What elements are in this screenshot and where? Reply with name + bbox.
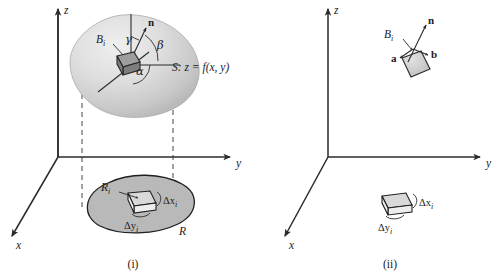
- x-axis-label-ii: x: [288, 239, 295, 251]
- delta-x-label-ii: Δxi: [419, 197, 433, 211]
- panel-ii: z y x n Bi a b: [285, 4, 492, 271]
- bi-leader-line-ii: [403, 39, 412, 50]
- bi-label-ii: Bi: [384, 28, 393, 43]
- z-axis-label-ii: z: [333, 4, 339, 16]
- surface-equation-label: S: z = f(x, y): [172, 61, 229, 74]
- delta-x-brace-ii: [413, 194, 417, 208]
- figure-canvas: z y x n Bi: [0, 0, 497, 274]
- alpha-label: α: [136, 64, 144, 78]
- normal-label-i: n: [148, 16, 154, 28]
- y-axis-label-ii: y: [485, 157, 492, 170]
- tangent-patch-bi: [402, 51, 430, 77]
- x-axis-ii: [285, 157, 328, 236]
- y-axis-label-i: y: [235, 157, 242, 170]
- vector-b-label: b: [431, 48, 437, 60]
- caption-panel-ii: (ii): [383, 258, 397, 271]
- base-tile-ii: [382, 193, 412, 215]
- beta-label: β: [156, 38, 164, 52]
- normal-label-ii: n: [428, 14, 434, 26]
- figure-root: z y x n Bi: [0, 0, 497, 274]
- subregion-tile-ri: [128, 191, 156, 213]
- x-axis-label-i: x: [15, 239, 22, 251]
- caption-panel-i: (i): [128, 258, 139, 271]
- panel-i: z y x n Bi: [12, 4, 242, 271]
- vector-a-label: a: [391, 52, 397, 64]
- region-label: R: [178, 225, 186, 237]
- delta-y-brace-ii: [386, 215, 404, 219]
- x-axis-i: [12, 157, 58, 236]
- delta-y-label-ii: Δyi: [378, 222, 392, 236]
- z-axis-label-i: z: [63, 4, 69, 16]
- gamma-label: γ: [125, 32, 132, 46]
